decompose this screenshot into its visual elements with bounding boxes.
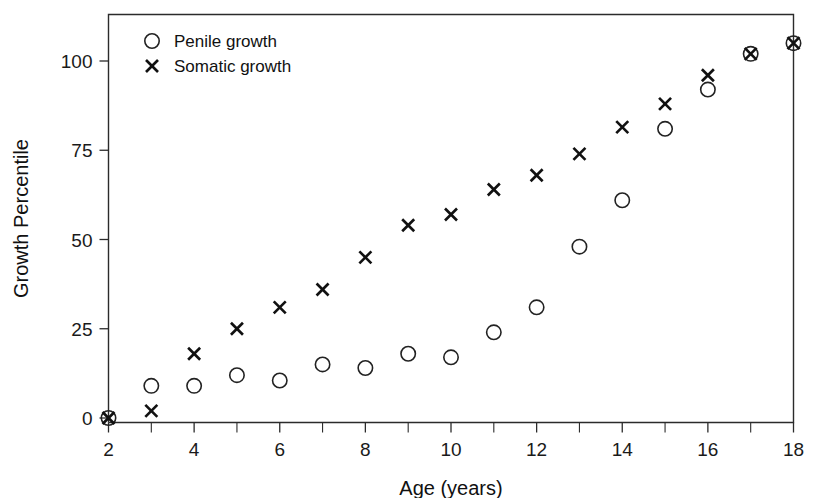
point-x-age-8 [359, 251, 371, 263]
point-x-age-13 [573, 148, 585, 160]
x-tick-label-2: 2 [103, 439, 114, 460]
y-tick-label-50: 50 [71, 230, 92, 251]
x-axis-title: Age (years) [399, 477, 502, 498]
x-tick-label-18: 18 [783, 439, 804, 460]
point-circle-age-13 [572, 239, 586, 253]
point-x-age-3 [145, 405, 157, 417]
point-circle-age-4 [187, 379, 201, 393]
legend-label-2: Somatic growth [174, 57, 291, 76]
x-tick-label-14: 14 [612, 439, 634, 460]
legend-label-1: Penile growth [174, 32, 277, 51]
point-x-age-5 [231, 323, 243, 335]
data-markers [101, 36, 800, 425]
y-tick-label-0: 0 [82, 408, 93, 429]
chart-legend: Penile growthSomatic growth [145, 32, 291, 76]
point-x-age-17 [745, 48, 757, 60]
y-axis-title: Growth Percentile [10, 139, 32, 298]
plot-canvas: 025507510024681012141618 Penile growthSo… [0, 0, 813, 498]
x-tick-label-4: 4 [189, 439, 200, 460]
legend-marker-x [146, 60, 158, 72]
point-x-age-6 [274, 301, 286, 313]
point-circle-age-9 [401, 347, 415, 361]
point-circle-age-15 [658, 122, 672, 136]
x-tick-label-10: 10 [440, 439, 461, 460]
point-circle-age-16 [701, 82, 715, 96]
point-circle-age-10 [444, 350, 458, 364]
point-x-age-12 [531, 169, 543, 181]
x-tick-label-8: 8 [360, 439, 371, 460]
point-circle-age-11 [487, 325, 501, 339]
point-x-age-14 [616, 121, 628, 133]
point-circle-age-8 [358, 361, 372, 375]
point-x-age-7 [317, 283, 329, 295]
point-circle-age-3 [144, 379, 158, 393]
point-x-age-15 [659, 98, 671, 110]
point-circle-age-7 [315, 357, 329, 371]
y-tick-label-25: 25 [71, 319, 92, 340]
point-x-age-9 [402, 219, 414, 231]
point-x-age-11 [488, 184, 500, 196]
x-tick-label-12: 12 [526, 439, 547, 460]
point-x-age-16 [702, 69, 714, 81]
x-tick-label-16: 16 [697, 439, 718, 460]
x-tick-label-6: 6 [274, 439, 285, 460]
point-circle-age-6 [273, 373, 287, 387]
y-tick-label-100: 100 [61, 51, 93, 72]
y-tick-label-75: 75 [71, 140, 92, 161]
point-circle-age-14 [615, 193, 629, 207]
point-x-age-4 [188, 348, 200, 360]
point-x-age-10 [445, 209, 457, 221]
axis-tick-labels: 025507510024681012141618 [61, 51, 804, 460]
point-circle-age-5 [230, 368, 244, 382]
scatter-chart-figure: 025507510024681012141618 Penile growthSo… [0, 0, 813, 498]
point-circle-age-12 [529, 300, 543, 314]
axis-ticks [100, 61, 794, 433]
legend-marker-circle [145, 34, 159, 48]
